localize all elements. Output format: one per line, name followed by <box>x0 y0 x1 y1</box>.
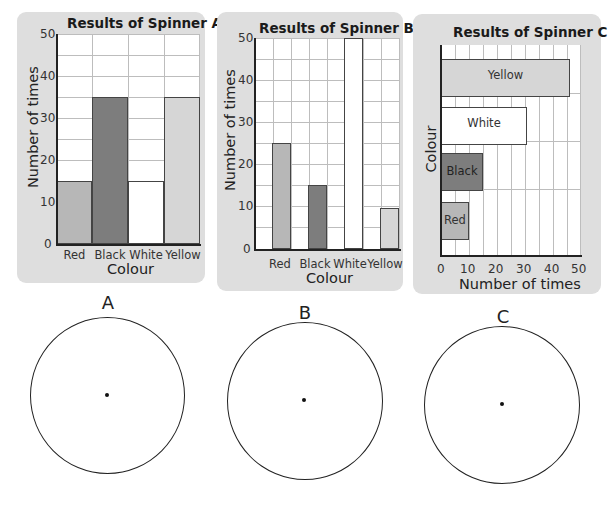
y-axis-title-a: Number of times <box>25 78 41 188</box>
x-cat-b-yellow: Yellow <box>365 257 405 271</box>
plot-area-b <box>255 38 400 249</box>
x-cat-b-red: Red <box>265 257 295 271</box>
bar-b-yellow <box>380 208 399 249</box>
bar-a-white <box>128 181 164 244</box>
x-cat-a-white: White <box>128 248 164 262</box>
y-axis-c <box>440 45 442 256</box>
bar-b-red <box>272 143 291 249</box>
bar-a-black <box>92 97 128 244</box>
x-tick-c-30: 30 <box>516 262 531 276</box>
y-tick-a-50: 50 <box>40 27 55 41</box>
x-axis-b <box>254 249 401 251</box>
x-cat-a-yellow: Yellow <box>163 248 203 262</box>
x-cat-b-black: Black <box>297 257 333 271</box>
bar-a-red <box>57 181 92 244</box>
y-tick-b-20: 20 <box>238 157 253 171</box>
bar-label-c-red: Red <box>441 213 469 227</box>
spinner-label-a: A <box>93 292 123 313</box>
bar-b-black <box>308 185 327 249</box>
x-axis-c <box>440 255 582 257</box>
bar-label-c-white: White <box>441 116 527 130</box>
x-axis-a <box>56 244 201 246</box>
x-cat-b-white: White <box>332 257 368 271</box>
chart-title-a: Results of Spinner A <box>67 15 222 31</box>
chart-title-c: Results of Spinner C <box>453 24 608 40</box>
x-tick-c-10: 10 <box>460 262 475 276</box>
bar-label-c-yellow: Yellow <box>441 68 570 82</box>
x-cat-a-red: Red <box>57 248 92 262</box>
y-tick-b-50: 50 <box>238 31 253 45</box>
y-tick-a-40: 40 <box>40 69 55 83</box>
spinner-center-dot-c <box>500 402 504 406</box>
x-tick-c-50: 50 <box>571 262 586 276</box>
chart-title-b: Results of Spinner B <box>259 20 414 36</box>
x-tick-c-40: 40 <box>544 262 559 276</box>
spinner-label-b: B <box>290 302 320 323</box>
x-axis-title-a: Colour <box>107 261 154 277</box>
x-tick-c-0: 0 <box>437 262 445 276</box>
y-axis-a <box>56 34 58 245</box>
spinner-center-dot-b <box>302 398 306 402</box>
spinner-label-c: C <box>488 306 518 327</box>
x-cat-a-black: Black <box>92 248 128 262</box>
y-tick-a-10: 10 <box>40 195 55 209</box>
y-axis-b <box>254 38 256 250</box>
y-tick-a-30: 30 <box>40 111 55 125</box>
bar-a-yellow <box>164 97 200 244</box>
y-tick-b-10: 10 <box>238 199 253 213</box>
y-axis-title-b: Number of times <box>222 81 238 191</box>
y-axis-title-c: Colour <box>423 114 439 184</box>
x-axis-title-b: Colour <box>306 270 353 286</box>
plot-area-c: Yellow White Black Red <box>441 45 581 255</box>
y-tick-a-20: 20 <box>40 153 55 167</box>
y-tick-a-0: 0 <box>44 237 52 251</box>
bar-label-c-black: Black <box>441 164 483 178</box>
y-tick-b-0: 0 <box>243 242 251 256</box>
plot-area-a <box>57 34 200 244</box>
y-tick-b-30: 30 <box>238 115 253 129</box>
bar-b-white <box>344 38 363 249</box>
spinner-center-dot-a <box>105 393 109 397</box>
x-axis-title-c: Number of times <box>459 276 581 292</box>
x-tick-c-20: 20 <box>488 262 503 276</box>
y-tick-b-40: 40 <box>238 73 253 87</box>
